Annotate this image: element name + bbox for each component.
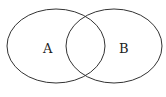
set-b-ellipse <box>66 9 162 83</box>
set-a-ellipse <box>7 9 105 83</box>
venn-diagram: A B <box>0 0 166 97</box>
set-a-label: A <box>42 41 53 56</box>
set-b-label: B <box>119 41 129 56</box>
